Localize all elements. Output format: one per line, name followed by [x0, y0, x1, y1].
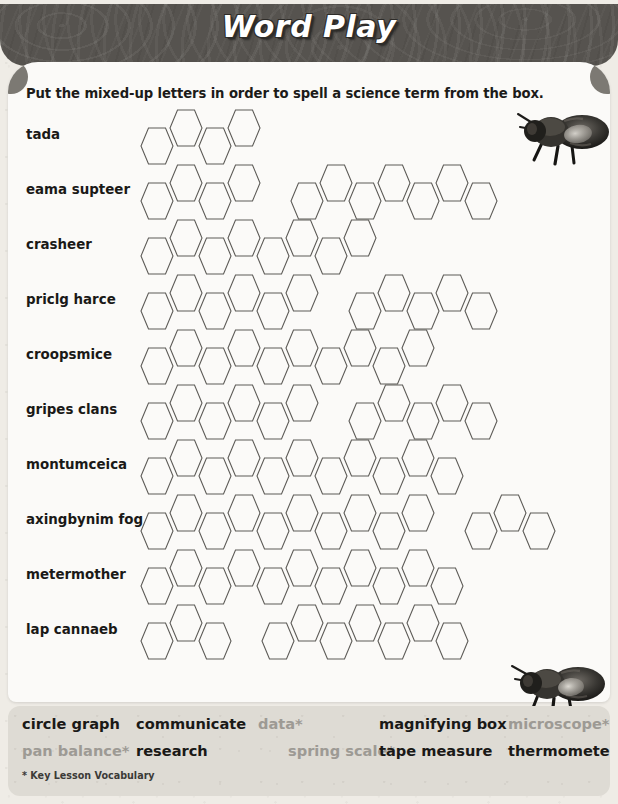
hexagon-group: [140, 276, 314, 328]
card-corner-left-decoration: [8, 62, 28, 94]
hexagon-group: [261, 606, 464, 658]
hexagon-group: [140, 331, 430, 383]
puzzle-row: tada: [8, 109, 610, 164]
hexagon-cell[interactable]: [227, 109, 261, 147]
scrambled-word-label: axingbynim fog: [26, 512, 143, 527]
vocabulary-word[interactable]: circle graph: [22, 715, 120, 732]
vocabulary-word[interactable]: pan balance*: [22, 742, 129, 759]
hexagon-group: [140, 606, 227, 658]
scrambled-word-label: metermother: [26, 567, 126, 582]
scrambled-word-label: lap cannaeb: [26, 622, 118, 637]
hexagon-cell[interactable]: [430, 567, 464, 605]
hexagon-groups: [140, 439, 459, 494]
puzzle-row: crasheer: [8, 219, 610, 274]
hexagon-group: [464, 496, 551, 548]
vocabulary-word[interactable]: research: [136, 742, 208, 759]
hexagon-group: [290, 166, 493, 218]
hexagon-cell[interactable]: [464, 182, 498, 220]
hexagon-groups: [140, 329, 430, 384]
puzzle-row: priclg harce: [8, 274, 610, 329]
worksheet-content-card: Put the mixed-up letters in order to spe…: [8, 62, 610, 702]
hexagon-groups: [140, 219, 372, 274]
scrambled-word-label: tada: [26, 127, 60, 142]
hexagon-cell[interactable]: [343, 219, 377, 257]
hexagon-group: [140, 221, 372, 273]
hexagon-group: [348, 386, 493, 438]
vocabulary-word[interactable]: communicate: [136, 715, 246, 732]
puzzle-row: eama supteer: [8, 164, 610, 219]
vocabulary-footnote: * Key Lesson Vocabulary: [22, 770, 155, 781]
hexagon-groups: [140, 274, 493, 329]
hexagon-groups: [140, 384, 493, 439]
puzzle-row: montumceica: [8, 439, 610, 494]
hexagon-cell[interactable]: [285, 384, 319, 422]
vocabulary-box: circle graphcommunicatedata*magnifying b…: [8, 706, 610, 796]
hexagon-cell[interactable]: [227, 164, 261, 202]
puzzle-row: axingbynim fog: [8, 494, 610, 549]
worksheet-page: Word Play Put the mixed-up letters in or…: [0, 0, 618, 804]
puzzle-row: croopsmice: [8, 329, 610, 384]
hexagon-cell[interactable]: [198, 622, 232, 660]
hexagon-group: [140, 111, 256, 163]
page-title: Word Play: [0, 9, 618, 44]
scrambled-word-label: priclg harce: [26, 292, 116, 307]
hexagon-cell[interactable]: [464, 292, 498, 330]
hexagon-groups: [140, 109, 256, 164]
vocabulary-word[interactable]: data*: [258, 715, 303, 732]
vocabulary-word[interactable]: thermometer: [508, 742, 610, 759]
scrambled-word-label: montumceica: [26, 457, 127, 472]
scrambled-word-label: gripes clans: [26, 402, 117, 417]
vocabulary-word[interactable]: tape measure: [379, 742, 492, 759]
hexagon-cell[interactable]: [401, 329, 435, 367]
puzzle-row: gripes clans: [8, 384, 610, 439]
scrambled-word-label: crasheer: [26, 237, 92, 252]
hexagon-group: [348, 276, 493, 328]
hexagon-cell[interactable]: [435, 622, 469, 660]
hexagon-cell[interactable]: [464, 402, 498, 440]
hexagon-group: [140, 166, 256, 218]
hexagon-groups: [140, 549, 459, 604]
hexagon-cell[interactable]: [522, 512, 556, 550]
puzzle-rows-container: tadaeama supteercrasheerpriclg harcecroo…: [8, 109, 610, 659]
vocabulary-word[interactable]: microscope*: [508, 715, 609, 732]
vocabulary-word[interactable]: magnifying box: [379, 715, 507, 732]
scrambled-word-label: croopsmice: [26, 347, 112, 362]
hexagon-group: [140, 496, 430, 548]
hexagon-cell[interactable]: [285, 274, 319, 312]
hexagon-groups: [140, 164, 493, 219]
hexagon-cell[interactable]: [430, 457, 464, 495]
instruction-text: Put the mixed-up letters in order to spe…: [26, 86, 544, 101]
scrambled-word-label: eama supteer: [26, 182, 130, 197]
hexagon-groups: [140, 604, 464, 659]
hexagon-cell[interactable]: [401, 494, 435, 532]
hexagon-groups: [140, 494, 551, 549]
hexagon-group: [140, 386, 314, 438]
card-corner-right-decoration: [590, 62, 610, 94]
hexagon-group: [140, 441, 459, 493]
puzzle-row: metermother: [8, 549, 610, 604]
hexagon-group: [140, 551, 459, 603]
puzzle-row: lap cannaeb: [8, 604, 610, 659]
